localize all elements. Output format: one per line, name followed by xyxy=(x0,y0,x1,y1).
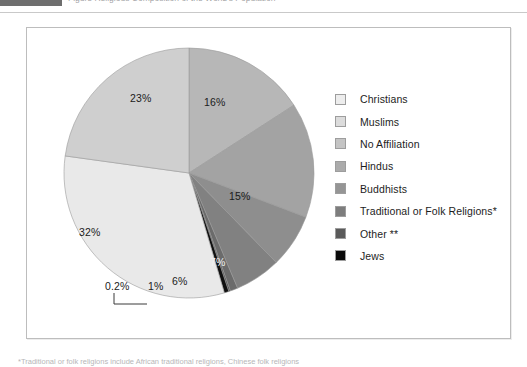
slice-label-muslims: 16% xyxy=(204,96,225,108)
legend-label-muslims: Muslims xyxy=(360,116,399,128)
legend-swatch-icon-hindus xyxy=(335,161,346,172)
legend-item-muslims[interactable]: Muslims xyxy=(335,110,507,132)
legend-swatch-icon-muslims xyxy=(335,116,346,127)
chart-legend: Christians Muslims No Affiliation Hindus… xyxy=(335,88,507,267)
legend-item-buddhists[interactable]: Buddhists xyxy=(335,178,507,200)
legend-item-other[interactable]: Other ** xyxy=(335,222,507,244)
legend-swatch-icon-traditional xyxy=(335,206,346,217)
slice-label-no-affiliation: 15% xyxy=(229,190,250,202)
chapter-tab-marker xyxy=(0,0,62,6)
pie-chart: 16% 15% 7% 6% 1% 0.2% 32% 23% xyxy=(63,47,315,299)
legend-item-hindus[interactable]: Hindus xyxy=(335,155,507,177)
legend-swatch-icon-other xyxy=(335,228,346,239)
slice-label-hindus: 7% xyxy=(210,256,225,268)
slice-label-other: 0.2% xyxy=(105,280,129,292)
legend-item-jews[interactable]: Jews xyxy=(335,245,507,267)
legend-label-traditional: Traditional or Folk Religions* xyxy=(360,205,497,217)
legend-swatch-icon-jews xyxy=(335,250,346,261)
legend-label-jews: Jews xyxy=(360,250,384,262)
figure-caption-cropped: Figure Religious Composition of the Worl… xyxy=(68,0,275,3)
figure-frame: 16% 15% 7% 6% 1% 0.2% 32% 23% Christians… xyxy=(26,27,511,339)
figure-footnote-cropped: *Traditional or folk religions include A… xyxy=(18,359,299,366)
header-rule xyxy=(0,12,527,13)
legend-label-christians: Christians xyxy=(360,93,408,105)
legend-label-hindus: Hindus xyxy=(360,160,393,172)
slice-label-unlabeled: 23% xyxy=(130,92,151,104)
pie-chart-svg xyxy=(63,47,315,299)
slice-label-christians: 32% xyxy=(79,226,100,238)
legend-swatch-icon-buddhists xyxy=(335,183,346,194)
pie-slice-unlabeled[interactable] xyxy=(65,48,189,173)
slice-label-traditional: 1% xyxy=(148,280,163,292)
legend-item-christians[interactable]: Christians xyxy=(335,88,507,110)
slice-label-buddhists: 6% xyxy=(172,275,187,287)
legend-swatch-icon-no-affiliation xyxy=(335,138,346,149)
legend-label-no-affiliation: No Affiliation xyxy=(360,138,420,150)
legend-item-traditional-or-folk-religions[interactable]: Traditional or Folk Religions* xyxy=(335,200,507,222)
scan-footnote-strip: *Traditional or folk religions include A… xyxy=(18,359,498,367)
legend-swatch-icon-christians xyxy=(335,94,346,105)
legend-label-buddhists: Buddhists xyxy=(360,183,407,195)
legend-label-other: Other ** xyxy=(360,228,398,240)
legend-item-no-affiliation[interactable]: No Affiliation xyxy=(335,133,507,155)
